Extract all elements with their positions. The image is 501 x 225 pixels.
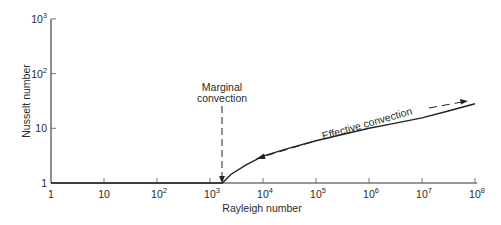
- x-tick-label: 105: [310, 186, 326, 200]
- x-tick-label: 102: [151, 186, 167, 200]
- y-tick-label: 1: [41, 177, 47, 189]
- x-tick-label: 108: [469, 186, 485, 200]
- x-tick-label: 107: [416, 186, 432, 200]
- right-dashed-arrow: [429, 102, 462, 108]
- effective-convection-annotation: Effective convection: [256, 99, 468, 159]
- marginal-convection-annotation: Marginal convection: [197, 81, 247, 183]
- x-tick-label: 106: [363, 186, 379, 200]
- x-axis-label: Rayleigh number: [222, 202, 302, 214]
- y-ticks: 110102103: [31, 11, 56, 189]
- arrow-right-icon: [460, 99, 468, 105]
- x-tick-label: 10: [98, 188, 110, 200]
- y-tick-label: 102: [31, 66, 47, 80]
- x-tick-label: 1: [48, 188, 54, 200]
- effective-convection-label: Effective convection: [320, 105, 413, 142]
- x-ticks: 110102103104105106107108: [48, 178, 485, 200]
- y-tick-label: 10: [35, 122, 47, 134]
- left-dashed-arrow: [262, 142, 312, 157]
- x-tick-label: 104: [257, 186, 273, 200]
- marginal-label-line2: convection: [197, 92, 247, 104]
- nusselt-rayleigh-chart: 110102103104105106107108 110102103 Nusse…: [0, 0, 501, 225]
- y-tick-label: 103: [31, 11, 47, 25]
- y-axis-label: Nusselt number: [20, 64, 32, 138]
- x-tick-label: 103: [204, 186, 220, 200]
- arrow-left-icon: [256, 154, 266, 160]
